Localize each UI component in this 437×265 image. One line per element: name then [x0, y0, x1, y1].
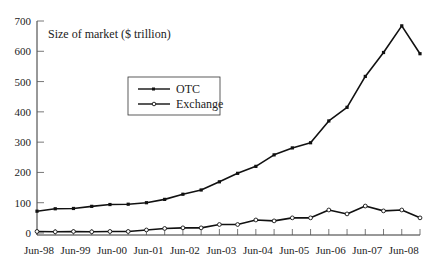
data-point [327, 119, 330, 122]
data-point [72, 207, 75, 210]
data-point [108, 203, 111, 206]
data-point [309, 141, 312, 144]
data-point [309, 216, 313, 220]
data-point [418, 52, 421, 55]
data-point [400, 208, 404, 212]
market-size-chart: 0100200300400500600700 Jun-98Jun-99Jun-0… [0, 0, 437, 265]
legend: OTC Exchange [128, 77, 223, 115]
data-point [327, 208, 331, 212]
data-point [382, 51, 385, 54]
data-point [217, 223, 221, 227]
data-point [345, 212, 349, 216]
data-point [53, 230, 57, 234]
y-tick-label: 100 [15, 197, 32, 209]
axes [37, 21, 420, 235]
data-point [218, 180, 221, 183]
y-tick-label: 400 [15, 106, 32, 118]
y-tick-label: 0 [26, 227, 32, 239]
series-lines [35, 24, 422, 233]
data-point [291, 146, 294, 149]
y-tick-label: 200 [15, 166, 32, 178]
data-point [400, 24, 403, 27]
y-tick-label: 300 [15, 136, 32, 148]
data-point [163, 198, 166, 201]
x-tick-label: Jun-00 [97, 244, 127, 256]
x-tick-label: Jun-04 [243, 244, 273, 256]
y-axis-label: Size of market ($ trillion) [48, 27, 171, 41]
x-axis-ticks: Jun-98Jun-99Jun-00Jun-01Jun-02Jun-03Jun-… [24, 229, 420, 256]
series-line-otc [37, 26, 420, 211]
y-axis-ticks: 0100200300400500600700 [15, 15, 45, 239]
data-point [272, 219, 276, 223]
legend-exchange-marker [152, 102, 156, 106]
legend-exchange-label: Exchange [176, 97, 223, 111]
data-point [290, 216, 294, 220]
data-point [108, 230, 112, 234]
x-tick-label: Jun-07 [352, 244, 382, 256]
data-point [145, 201, 148, 204]
data-point [345, 106, 348, 109]
data-point [200, 188, 203, 191]
legend-otc-label: OTC [176, 82, 200, 96]
data-point [145, 228, 149, 232]
data-point [236, 172, 239, 175]
data-point [126, 230, 130, 234]
y-tick-label: 600 [15, 45, 32, 57]
x-tick-label: Jun-05 [279, 244, 309, 256]
data-point [236, 223, 240, 227]
data-point [181, 193, 184, 196]
x-tick-label: Jun-01 [133, 244, 163, 256]
data-point [90, 230, 94, 234]
data-point [163, 227, 167, 231]
series-line-exchange [37, 206, 420, 232]
data-point [254, 165, 257, 168]
data-point [418, 216, 422, 220]
data-point [199, 226, 203, 230]
x-tick-label: Jun-06 [316, 244, 346, 256]
x-tick-label: Jun-08 [389, 244, 419, 256]
data-point [364, 75, 367, 78]
data-point [382, 209, 386, 213]
data-point [54, 207, 57, 210]
x-tick-label: Jun-98 [24, 244, 54, 256]
x-tick-label: Jun-99 [60, 244, 90, 256]
data-point [90, 205, 93, 208]
data-point [127, 203, 130, 206]
data-point [35, 230, 39, 234]
data-point [181, 226, 185, 230]
x-tick-label: Jun-03 [206, 244, 236, 256]
data-point [35, 210, 38, 213]
data-point [363, 204, 367, 208]
data-point [72, 230, 76, 234]
x-tick-label: Jun-02 [170, 244, 200, 256]
y-tick-label: 700 [15, 15, 32, 27]
data-point [254, 218, 258, 222]
legend-otc-marker [152, 88, 155, 91]
y-tick-label: 500 [15, 76, 32, 88]
data-point [272, 153, 275, 156]
